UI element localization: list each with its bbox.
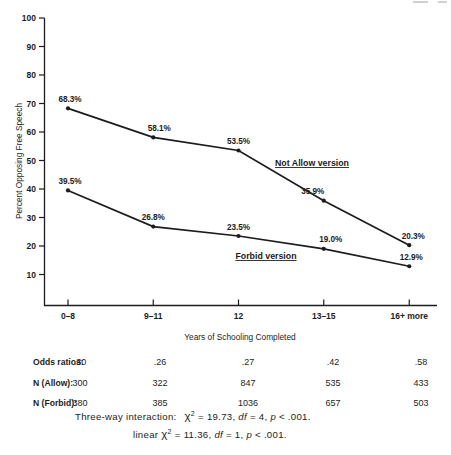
p-value: < .001. <box>279 411 311 422</box>
stat-prefix: linear <box>133 429 158 440</box>
df-label: df <box>238 411 247 422</box>
table-cell: 847 <box>240 378 255 388</box>
df-label: df <box>214 429 223 440</box>
table-cell: 385 <box>152 398 167 408</box>
stat-value: = 19.73, <box>198 411 235 422</box>
chi-exponent: 2 <box>168 428 172 435</box>
table-cell: 322 <box>152 378 167 388</box>
table-cell: 657 <box>325 398 340 408</box>
stat-line-linear: linearχ2 = 11.36, df = 1, p < .001. <box>133 428 287 440</box>
p-label: p <box>246 429 252 440</box>
chi-exponent: 2 <box>191 410 195 417</box>
table-cell: .30 <box>74 357 87 367</box>
table-row-odds-ratios: Odds ratios: .30 .26 .27 .42 .58 <box>0 357 451 370</box>
table-cell: 503 <box>413 398 428 408</box>
row-label: N (Forbid): <box>33 398 77 408</box>
p-label: p <box>270 411 276 422</box>
table-cell: 535 <box>325 378 340 388</box>
table-cell: .26 <box>154 357 167 367</box>
stat-value: = 11.36, <box>175 429 212 440</box>
p-value: < .001. <box>255 429 287 440</box>
table-cell: 300 <box>72 378 87 388</box>
table-cell: .58 <box>415 357 428 367</box>
row-label: N (Allow): <box>33 378 73 388</box>
df-value: = 4, <box>250 411 267 422</box>
stat-line-three-way-interaction: Three-way interaction:χ2 = 19.73, df = 4… <box>75 410 311 422</box>
stat-prefix: Three-way interaction: <box>75 411 177 422</box>
table-cell: .42 <box>327 357 340 367</box>
summary-table: Odds ratios: .30 .26 .27 .42 .58 N (Allo… <box>0 0 451 455</box>
table-cell: 433 <box>413 378 428 388</box>
table-cell: 1036 <box>238 398 258 408</box>
table-row-n-allow: N (Allow): 300 322 847 535 433 <box>0 378 451 391</box>
df-value: = 1, <box>226 429 243 440</box>
table-cell: .27 <box>242 357 255 367</box>
table-cell: 380 <box>72 398 87 408</box>
scanned-figure-page: 1020304050607080901000–89–111213–1516+ m… <box>0 0 451 455</box>
